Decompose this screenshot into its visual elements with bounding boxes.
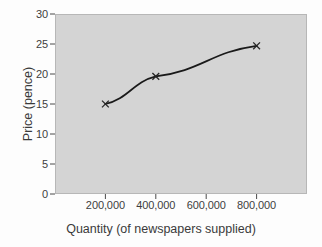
x-tick-label: 600,000 xyxy=(187,199,226,211)
plot-area xyxy=(55,14,307,194)
x-axis-title: Quantity (of newspapers supplied) xyxy=(0,222,322,236)
x-tick-label: 200,000 xyxy=(86,199,125,211)
y-tick-label: 0 xyxy=(2,189,48,200)
x-tick-label: 400,000 xyxy=(136,199,175,211)
x-axis-tick-labels: 200,000400,000600,000800,000 xyxy=(0,199,322,215)
chart-figure: 051015202530 200,000400,000600,000800,00… xyxy=(0,0,322,247)
y-tick-label: 30 xyxy=(2,9,48,20)
y-axis-title: Price (pence) xyxy=(21,24,35,184)
x-tick-label: 800,000 xyxy=(237,199,276,211)
